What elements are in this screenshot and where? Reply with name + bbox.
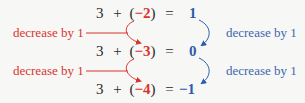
plus-sign: + (113, 81, 121, 98)
equals-sign: = (165, 5, 173, 22)
negative-addend: −2 (134, 5, 150, 22)
addend: 3 (96, 43, 104, 60)
equals-sign: = (165, 81, 173, 98)
addend: 3 (96, 5, 104, 22)
negative-addend: −3 (134, 43, 150, 60)
plus-sign: + (113, 43, 121, 60)
result-3: −1 (179, 81, 195, 98)
close-paren: ) (151, 81, 156, 98)
equals-sign: = (165, 43, 173, 60)
equation-row-1: 3 + (−2) = (96, 5, 174, 22)
right-label-2: decrease by 1 (226, 63, 297, 79)
addend: 3 (96, 81, 104, 98)
close-paren: ) (151, 5, 156, 22)
left-label-2: decrease by 1 (13, 63, 84, 79)
plus-sign: + (113, 5, 121, 22)
blue-arrow-1 (199, 20, 209, 45)
close-paren: ) (151, 43, 156, 60)
red-arrow-2 (86, 59, 140, 81)
red-arrow-1 (86, 21, 140, 43)
right-label-1: decrease by 1 (226, 25, 297, 41)
result-1: 1 (189, 5, 197, 22)
left-label-1: decrease by 1 (13, 25, 84, 41)
blue-arrow-2 (199, 58, 209, 83)
negative-addend: −4 (134, 81, 150, 98)
equation-row-2: 3 + (−3) = (96, 43, 174, 60)
equation-row-3: 3 + (−4) = (96, 81, 174, 98)
result-2: 0 (189, 43, 197, 60)
